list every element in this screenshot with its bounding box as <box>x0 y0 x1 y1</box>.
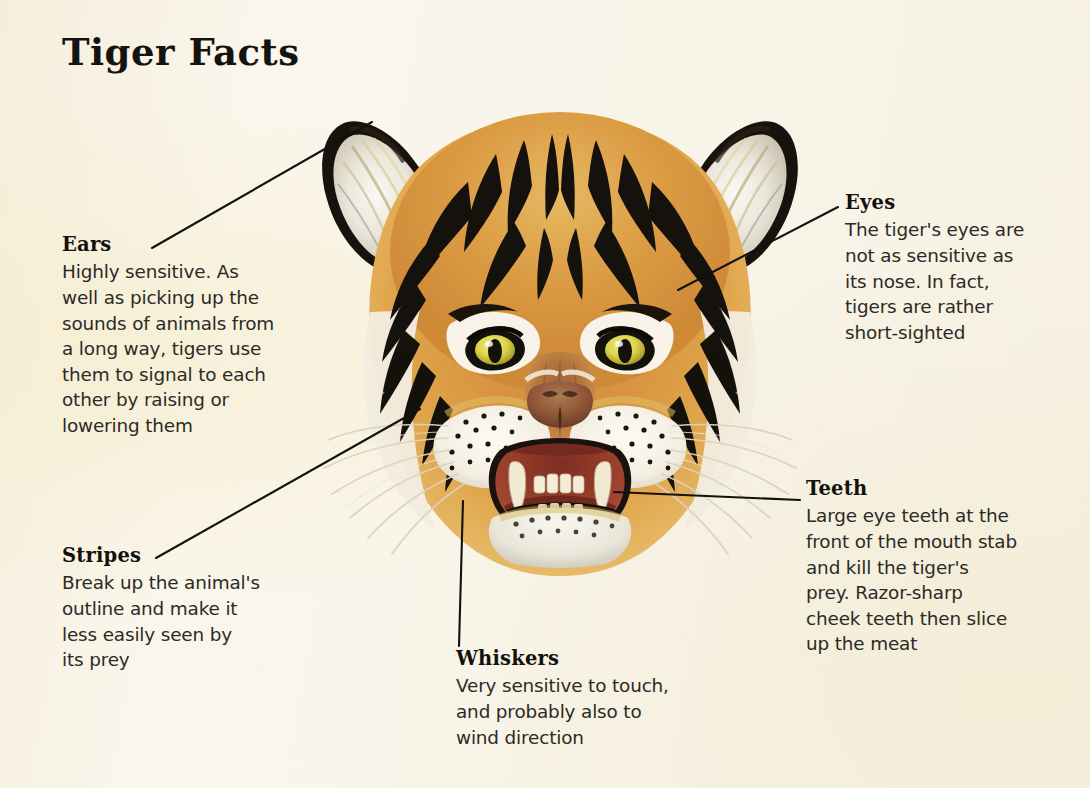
callout-body-eyes: The tiger's eyes are not as sensitive as… <box>845 217 1080 345</box>
callout-heading-ears: Ears <box>62 234 312 255</box>
callout-heading-whiskers: Whiskers <box>456 648 756 669</box>
page-canvas: Tiger Facts Ears Highly sensitive. As we… <box>0 0 1090 788</box>
callout-heading-eyes: Eyes <box>845 192 1080 213</box>
callout-body-ears: Highly sensitive. As well as picking up … <box>62 259 312 438</box>
callout-body-whiskers: Very sensitive to touch, and probably al… <box>456 673 756 750</box>
callout-heading-stripes: Stripes <box>62 545 312 566</box>
callout-heading-teeth: Teeth <box>806 478 1056 499</box>
tiger-head-illustration <box>300 62 820 622</box>
callout-teeth: Teeth Large eye teeth at the front of th… <box>806 478 1056 657</box>
callout-body-stripes: Break up the animal's outline and make i… <box>62 570 312 672</box>
callout-whiskers: Whiskers Very sensitive to touch, and pr… <box>456 648 756 750</box>
callout-eyes: Eyes The tiger's eyes are not as sensiti… <box>845 192 1080 345</box>
callout-stripes: Stripes Break up the animal's outline an… <box>62 545 312 673</box>
callout-body-teeth: Large eye teeth at the front of the mout… <box>806 503 1056 657</box>
page-title: Tiger Facts <box>62 30 300 74</box>
callout-ears: Ears Highly sensitive. As well as pickin… <box>62 234 312 439</box>
